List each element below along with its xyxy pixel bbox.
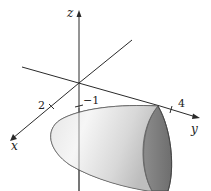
paraboloid-diagram: z x y 2 −1 4 xyxy=(0,0,211,191)
x-axis-label: x xyxy=(11,139,18,153)
x-axis-back xyxy=(79,40,132,83)
y-tick-label: 4 xyxy=(178,97,185,110)
z-axis-label: z xyxy=(66,6,74,20)
z-tick-label: −1 xyxy=(83,94,99,107)
x-tick-label: 2 xyxy=(38,99,45,112)
paraboloid-body xyxy=(51,106,158,191)
y-axis-arrowhead xyxy=(192,114,200,120)
z-axis-arrowhead xyxy=(77,10,82,17)
y-axis-label: y xyxy=(190,122,198,136)
